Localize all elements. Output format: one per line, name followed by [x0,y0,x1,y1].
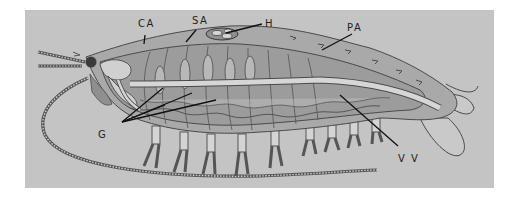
label-h: H [265,18,274,29]
label-pa: PA [347,22,362,33]
label-sa: SA [192,15,208,26]
anatomy-figure: CA SA H PA G V V [0,0,516,199]
label-g: G [98,129,107,140]
heart-structure [206,28,238,40]
compound-eye [86,57,97,68]
label-ca: CA [138,18,155,29]
label-vv: V V [398,153,419,164]
arthropod-illustration: CA SA H PA G V V [0,0,516,199]
short-antennae [38,52,85,66]
